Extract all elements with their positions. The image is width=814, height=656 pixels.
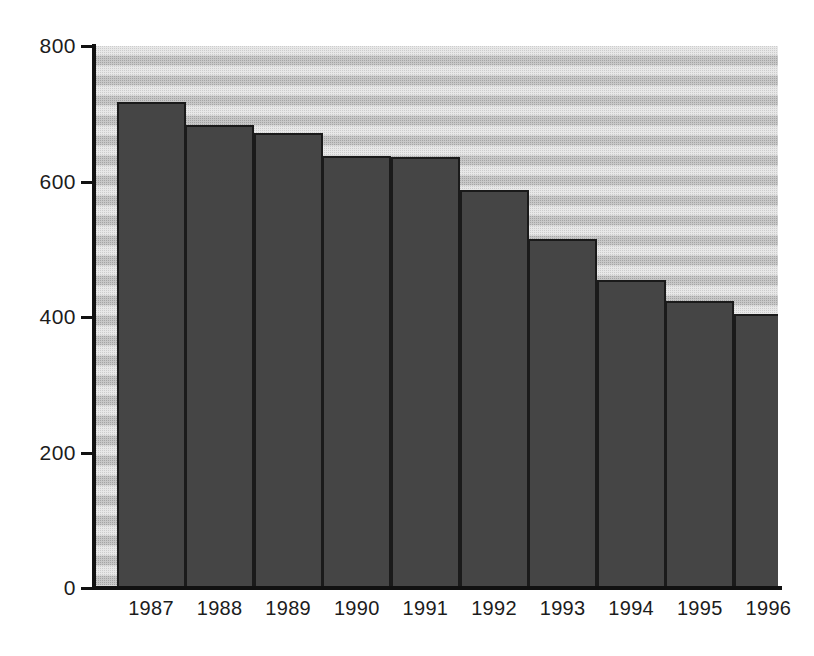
bar-1989 <box>254 133 323 588</box>
bar-1996 <box>734 314 778 588</box>
y-tick-mark-600 <box>81 181 92 184</box>
bar-1993 <box>528 239 597 588</box>
bar-1991 <box>391 157 460 588</box>
bar-1995 <box>665 301 734 588</box>
y-tick-mark-800 <box>81 45 92 48</box>
x-axis-line <box>92 586 782 590</box>
bar-chart: 0200400600800 19871988198919901991199219… <box>0 0 814 656</box>
bar-1990 <box>322 156 391 588</box>
x-tick-label-1996: 1996 <box>728 598 808 618</box>
y-axis-line <box>92 44 96 590</box>
y-tick-mark-400 <box>81 316 92 319</box>
bar-1994 <box>597 280 666 588</box>
y-tick-label-0: 0 <box>64 577 76 598</box>
bar-1987 <box>117 102 186 588</box>
plot-area <box>96 46 778 588</box>
y-tick-label-200: 200 <box>39 442 76 463</box>
y-tick-label-800: 800 <box>39 35 76 56</box>
bar-1988 <box>185 125 254 588</box>
bar-1992 <box>460 190 529 588</box>
y-tick-label-600: 600 <box>39 171 76 192</box>
y-tick-label-400: 400 <box>39 306 76 327</box>
y-tick-mark-200 <box>81 452 92 455</box>
y-tick-mark-0 <box>81 587 92 590</box>
